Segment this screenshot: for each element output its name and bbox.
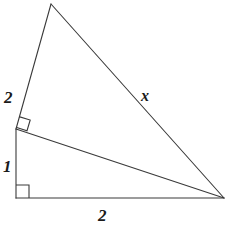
length-label-upper-left-leg: 2 xyxy=(4,89,13,106)
length-label-hypotenuse-x: x xyxy=(141,88,149,104)
figure-canvas xyxy=(0,0,235,234)
segment-upper-left-leg xyxy=(16,4,51,129)
length-label-lower-left-leg: 1 xyxy=(3,158,12,175)
right-angle-bottom-left-icon xyxy=(16,185,29,198)
length-label-bottom-leg: 2 xyxy=(98,207,107,224)
geometry-figure: 2 1 2 x xyxy=(0,0,235,234)
right-angle-middle-left-icon xyxy=(16,117,30,131)
